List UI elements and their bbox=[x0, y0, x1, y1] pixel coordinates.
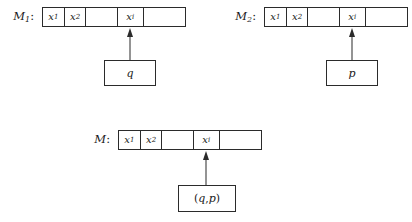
tape-m1-cell-2: x2 bbox=[65, 8, 87, 26]
tape-m: x1 x2 xi bbox=[118, 130, 262, 150]
machine-m1: M1: x1 x2 xi q bbox=[0, 0, 206, 111]
state-box-m1-label: q bbox=[126, 68, 133, 79]
machine-m1-name: M bbox=[13, 9, 25, 23]
tape-m1-cell-4-sub: i bbox=[132, 14, 134, 21]
tape-m-cell-2: x2 bbox=[141, 131, 163, 149]
tape-m1-cell-4-head: xi bbox=[118, 8, 144, 26]
tape-m1-cell-1: x1 bbox=[43, 8, 65, 26]
state-box-m-close-paren: ) bbox=[216, 193, 220, 204]
state-box-m: (q,p) bbox=[178, 185, 236, 212]
tape-m2-cell-1: x1 bbox=[265, 8, 287, 26]
machine-m-label: M: bbox=[80, 134, 110, 147]
tape-m2-cell-3-blank bbox=[308, 8, 340, 26]
state-box-m2-label: p bbox=[348, 68, 355, 79]
tape-m2-cell-4-sub: i bbox=[354, 14, 356, 21]
turing-machine-product-figure: M1: x1 x2 xi q bbox=[0, 0, 412, 222]
tape-m1-cell-2-sub: 2 bbox=[76, 14, 80, 21]
machine-m2-label: M2: bbox=[226, 11, 256, 24]
tape-m-cell-1-sub: 1 bbox=[130, 137, 134, 144]
tape-m-cell-5-blank bbox=[220, 131, 261, 149]
head-arrow-m bbox=[198, 151, 214, 185]
machine-m-colon: : bbox=[106, 132, 110, 146]
head-arrow-m-shaft bbox=[206, 159, 207, 185]
machine-m1-label: M1: bbox=[4, 11, 34, 24]
head-arrow-m1 bbox=[122, 28, 138, 60]
tape-m1-cell-3-blank bbox=[86, 8, 118, 26]
machine-m2: M2: x1 x2 xi p bbox=[206, 0, 412, 111]
state-box-m-right-state: p bbox=[209, 193, 216, 204]
machine-m1-colon: : bbox=[30, 9, 34, 23]
head-arrow-m2-shaft bbox=[352, 36, 353, 60]
tape-m2-cell-2-sub: 2 bbox=[298, 14, 302, 21]
tape-m2: x1 x2 xi bbox=[264, 7, 408, 27]
tape-m-cell-3-blank bbox=[162, 131, 194, 149]
head-arrow-m2 bbox=[344, 28, 360, 60]
tape-m2-cell-5-blank bbox=[366, 8, 407, 26]
tape-m-cell-2-sub: 2 bbox=[152, 137, 156, 144]
machine-m2-name: M bbox=[235, 9, 247, 23]
state-box-m-left-state: q bbox=[198, 193, 205, 204]
tape-m-cell-4-sub: i bbox=[208, 137, 210, 144]
state-box-m1: q bbox=[104, 60, 156, 86]
state-box-m2: p bbox=[326, 60, 378, 86]
tape-m1: x1 x2 xi bbox=[42, 7, 186, 27]
tape-m-cell-4-head: xi bbox=[194, 131, 220, 149]
tape-m1-cell-5-blank bbox=[144, 8, 185, 26]
tape-m2-cell-4-head: xi bbox=[340, 8, 366, 26]
machine-m: M: x1 x2 xi (q,p) bbox=[80, 111, 332, 222]
head-arrow-m1-shaft bbox=[130, 36, 131, 60]
tape-m2-cell-2: x2 bbox=[287, 8, 309, 26]
tape-m1-cell-1-sub: 1 bbox=[54, 14, 58, 21]
machine-m2-colon: : bbox=[252, 9, 256, 23]
tape-m-cell-1: x1 bbox=[119, 131, 141, 149]
tape-m2-cell-1-sub: 1 bbox=[276, 14, 280, 21]
machine-m-name: M bbox=[94, 132, 106, 146]
